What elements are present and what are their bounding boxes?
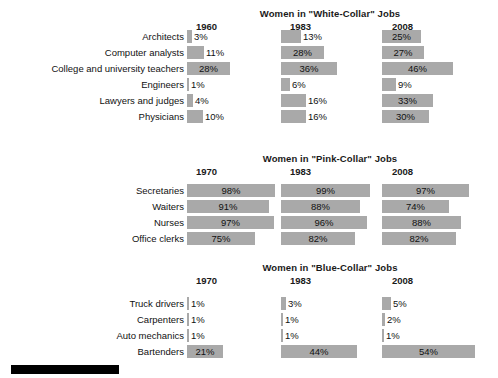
bar-value-label: 1% (386, 329, 400, 342)
bar (382, 329, 384, 342)
bar-value-label: 30% (382, 110, 429, 123)
bar-value-label: 16% (308, 110, 327, 123)
bar-value-label: 88% (382, 216, 461, 229)
row-label: Office clerks (132, 232, 184, 245)
row-label: Engineers (141, 78, 184, 91)
bar-group: 88% (382, 216, 498, 229)
row-label: Architects (142, 30, 184, 43)
bar-value-label: 25% (382, 30, 421, 43)
bar-group: 1% (187, 78, 249, 91)
bar-group: 5% (382, 297, 451, 310)
bar (187, 110, 203, 123)
bar (187, 329, 189, 342)
bar-group: 3% (281, 297, 346, 310)
chart-page: { "chart_data": [ { "type": "bar", "titl… (0, 0, 498, 378)
chart-row: Secretaries98%99%97% (0, 183, 498, 199)
bar-group: 21% (187, 345, 283, 358)
year-header-row: 197019832008 (0, 275, 498, 289)
bar-group: 74% (382, 200, 498, 213)
bar-value-label: 1% (191, 313, 205, 326)
bar-group: 9% (382, 78, 456, 91)
bar-value-label: 46% (382, 62, 453, 75)
footer-rule (11, 365, 119, 374)
bar-group: 4% (187, 94, 253, 107)
chart-row: College and university teachers28%36%46% (0, 61, 498, 77)
bar-value-label: 97% (187, 216, 274, 229)
bar-value-label: 1% (285, 313, 299, 326)
row-label: Secretaries (136, 184, 184, 197)
bar-value-label: 44% (281, 345, 357, 358)
year-label-1983: 1983 (290, 166, 311, 177)
bar-value-label: 74% (382, 200, 449, 213)
bar-group: 10% (187, 110, 263, 123)
bar-value-label: 1% (285, 329, 299, 342)
bar-group: 2% (382, 313, 445, 326)
bar-group: 1% (187, 297, 249, 310)
chart-title: Women in "White-Collar" Jobs (180, 8, 480, 19)
bar-value-label: 1% (191, 78, 205, 91)
bar-group: 82% (382, 232, 498, 245)
row-label: Waiters (152, 200, 184, 213)
bar-value-label: 54% (382, 345, 475, 358)
bar-group: 1% (187, 313, 249, 326)
row-label: Carpenters (137, 313, 184, 326)
bar-value-label: 4% (195, 94, 209, 107)
bar-value-label: 33% (382, 94, 433, 107)
bar-group: 36% (281, 62, 397, 75)
bar (187, 78, 189, 91)
bar-group: 16% (281, 110, 366, 123)
bar (187, 297, 189, 310)
bar-value-label: 1% (191, 329, 205, 342)
bar-group: 1% (281, 329, 343, 342)
chart-row: Architects3%13%25% (0, 29, 498, 45)
bar-value-label: 27% (382, 46, 424, 59)
bar-group: 54% (382, 345, 498, 358)
bar (281, 297, 286, 310)
bar-value-label: 3% (194, 30, 208, 43)
row-label: Auto mechanics (116, 329, 184, 342)
chart-row: Engineers1%6%9% (0, 77, 498, 93)
bar-value-label: 9% (398, 78, 412, 91)
chart-row: Physicians10%16%30% (0, 109, 498, 125)
bar-group: 97% (382, 184, 498, 197)
chart-title: Women in "Pink-Collar" Jobs (180, 153, 480, 164)
bar (281, 78, 290, 91)
row-label: Bartenders (138, 345, 184, 358)
bar-value-label: 75% (187, 232, 255, 245)
bar (281, 313, 283, 326)
bar-group: 11% (187, 46, 264, 59)
chart-row: Nurses97%96%88% (0, 215, 498, 231)
chart-row: Office clerks75%82%82% (0, 231, 498, 247)
chart-row: Carpenters1%1%2% (0, 312, 498, 328)
bar-value-label: 6% (292, 78, 306, 91)
bar (187, 46, 204, 59)
bar-value-label: 91% (187, 200, 269, 213)
bar-group: 6% (281, 78, 350, 91)
chart-rows: Truck drivers1%3%5%Carpenters1%1%2%Auto … (0, 296, 498, 360)
year-label-1983: 1983 (290, 275, 311, 286)
bar-value-label: 28% (281, 46, 324, 59)
bar-value-label: 88% (281, 200, 360, 213)
year-label-2008: 2008 (392, 166, 413, 177)
bar-value-label: 11% (206, 46, 224, 59)
bar-group: 1% (382, 329, 444, 342)
bar-value-label: 5% (393, 297, 407, 310)
year-label-1970: 1970 (196, 166, 217, 177)
bar-value-label: 16% (308, 94, 327, 107)
chart-rows: Architects3%13%25%Computer analysts11%28… (0, 29, 498, 125)
chart-row: Truck drivers1%3%5% (0, 296, 498, 312)
bar-value-label: 96% (281, 216, 367, 229)
row-label: Lawyers and judges (100, 94, 185, 107)
bar-group: 1% (281, 313, 343, 326)
bar (281, 329, 283, 342)
bar-group: 33% (382, 94, 493, 107)
bar-value-label: 36% (281, 62, 337, 75)
bar-group: 13% (281, 30, 361, 43)
bar-group: 1% (187, 329, 249, 342)
bar (382, 313, 385, 326)
chart-row: Auto mechanics1%1%1% (0, 328, 498, 344)
bar-group: 30% (382, 110, 489, 123)
bar-value-label: 1% (191, 297, 205, 310)
row-label: Computer analysts (105, 46, 184, 59)
bar (382, 297, 391, 310)
